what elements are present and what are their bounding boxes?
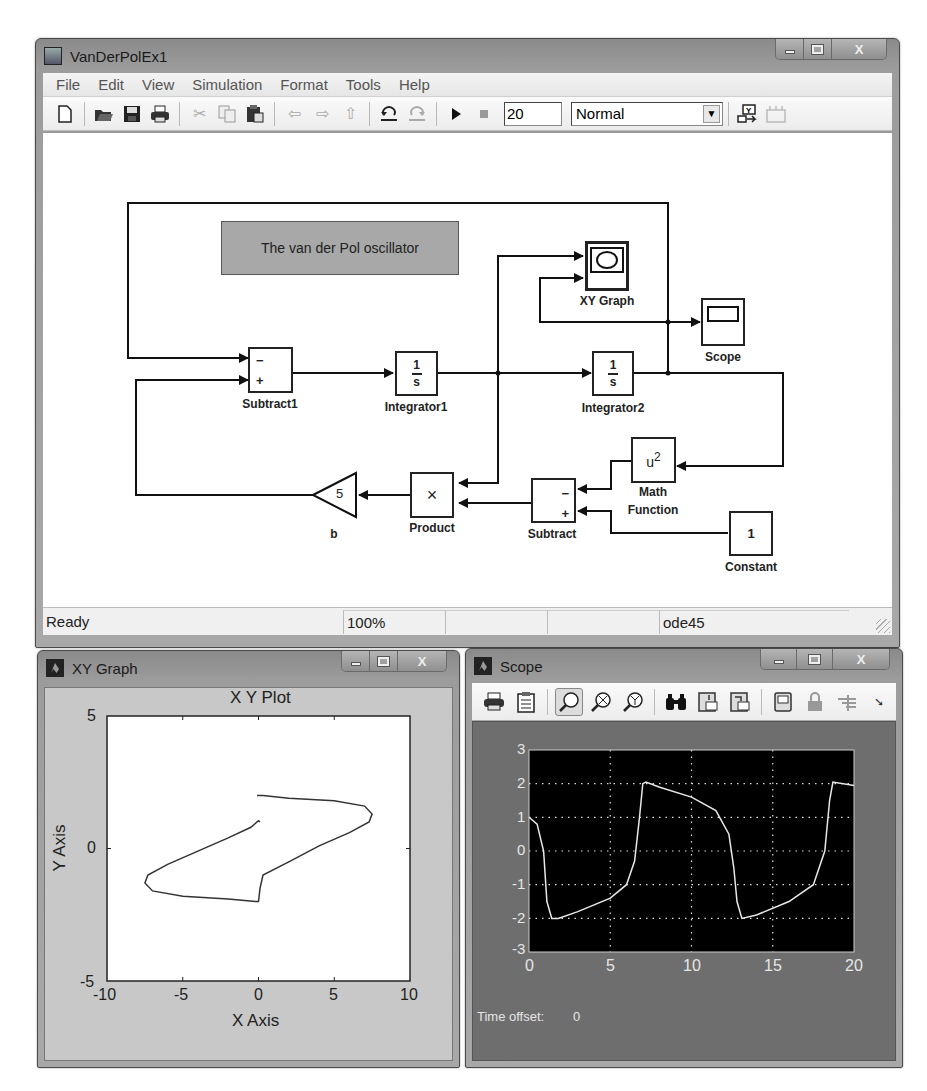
model-toolbar: ✂ ⇦ ⇨ ⇧ 20 Normal ▼ Y	[43, 97, 892, 131]
xy-graph-icon	[590, 247, 624, 273]
simulation-mode-value: Normal	[576, 105, 624, 122]
zoom-x-icon	[590, 691, 612, 713]
toolbar-separator	[728, 102, 729, 126]
signal-selector-button[interactable]	[833, 688, 861, 716]
xy-plot-axes[interactable]	[45, 688, 454, 1064]
open-button[interactable]	[93, 103, 115, 125]
status-state: Ready	[43, 610, 343, 634]
port-plus-sign: +	[256, 371, 291, 391]
constant-block[interactable]: 1	[729, 511, 773, 556]
forward-button[interactable]: ⇨	[311, 103, 333, 125]
back-button[interactable]: ⇦	[283, 103, 305, 125]
scope-x-tick-10: 10	[683, 957, 701, 975]
cut-button[interactable]: ✂	[188, 103, 210, 125]
scope-y-tick-neg1: -1	[512, 875, 525, 892]
product-block[interactable]: ×	[410, 472, 454, 518]
autoscale-button[interactable]	[662, 688, 690, 716]
new-model-button[interactable]	[54, 103, 76, 125]
toolbar-separator	[761, 689, 762, 715]
math-function-block[interactable]: u2	[631, 437, 676, 483]
close-button[interactable]: X	[832, 39, 886, 59]
toolbar-separator	[436, 102, 437, 126]
transfer-function: 1s	[608, 359, 618, 389]
menu-help[interactable]: Help	[390, 76, 439, 93]
up-button[interactable]: ⇧	[339, 103, 361, 125]
undo-icon	[379, 105, 399, 123]
scope-toolbar: ➘	[472, 683, 896, 721]
scope-block[interactable]	[701, 298, 745, 346]
math-exponent: 2	[654, 450, 661, 464]
scope-x-tick-0: 0	[525, 957, 534, 975]
close-button[interactable]: X	[398, 651, 446, 671]
zoom-x-button[interactable]	[587, 688, 615, 716]
minimize-button[interactable]	[761, 649, 797, 669]
zoom-button[interactable]	[555, 688, 583, 716]
model-titlebar[interactable]: VanDerPolEx1	[36, 39, 899, 73]
menu-simulation[interactable]: Simulation	[183, 76, 271, 93]
library-icon	[765, 104, 787, 124]
menu-edit[interactable]: Edit	[89, 76, 133, 93]
print-button[interactable]	[149, 103, 171, 125]
resize-grip[interactable]	[876, 619, 890, 633]
paste-button[interactable]	[244, 103, 266, 125]
constant-value: 1	[747, 526, 754, 541]
restore-axes-button[interactable]	[726, 688, 754, 716]
x-axis-label: X Axis	[232, 1011, 279, 1031]
subtract1-block[interactable]: − +	[248, 347, 293, 393]
subtract-block[interactable]: − +	[531, 478, 576, 523]
simulation-mode-select[interactable]: Normal ▼	[571, 102, 723, 126]
x-tick-5: 5	[329, 986, 338, 1004]
toolbar-separator	[369, 102, 370, 126]
matlab-figure-icon	[46, 659, 64, 677]
block-diagram-canvas[interactable]: The van der Pol oscillator − + Subtract1…	[43, 132, 892, 607]
restore-axes-icon	[729, 691, 751, 713]
redo-button[interactable]	[406, 103, 428, 125]
open-icon	[94, 105, 114, 123]
zoom-icon	[558, 691, 580, 713]
minimize-button[interactable]	[342, 651, 370, 671]
stop-time-input[interactable]: 20	[504, 102, 562, 126]
xy-figure-area: X Y Plot 5 0 -5 -10 -5 0 5 10 X Axis Y A…	[44, 687, 453, 1061]
annotation-title[interactable]: The van der Pol oscillator	[221, 221, 459, 275]
gain-value[interactable]: 5	[336, 486, 343, 501]
zoom-y-button[interactable]	[619, 688, 647, 716]
save-button[interactable]	[121, 103, 143, 125]
menu-file[interactable]: File	[47, 76, 89, 93]
integrator1-block[interactable]: 1s	[395, 351, 438, 396]
save-axes-button[interactable]	[694, 688, 722, 716]
xy-graph-block[interactable]	[585, 241, 629, 291]
chevron-down-icon[interactable]: ▼	[703, 105, 720, 123]
maximize-icon	[809, 655, 820, 664]
scope-x-tick-15: 15	[764, 957, 782, 975]
undo-button[interactable]	[378, 103, 400, 125]
scope-print-button[interactable]	[480, 688, 508, 716]
stop-simulation-button[interactable]	[473, 103, 495, 125]
scope-parameters-button[interactable]	[512, 688, 540, 716]
library-browser-button[interactable]	[765, 103, 787, 125]
math-base: u	[646, 454, 654, 470]
dock-button[interactable]: ➘	[865, 688, 893, 716]
copy-button[interactable]	[216, 103, 238, 125]
parameters-icon	[516, 691, 536, 713]
model-window: VanDerPolEx1 X File Edit View Simulation…	[35, 38, 900, 648]
menu-format[interactable]: Format	[271, 76, 337, 93]
floating-scope-button[interactable]	[769, 688, 797, 716]
build-button[interactable]: Y	[737, 103, 759, 125]
port-minus-sign: −	[561, 484, 569, 504]
minimize-button[interactable]	[776, 39, 804, 59]
maximize-button[interactable]	[797, 649, 833, 669]
port-plus-sign: +	[561, 504, 569, 524]
maximize-button[interactable]	[370, 651, 398, 671]
stop-icon	[479, 109, 489, 119]
lock-axes-button[interactable]	[801, 688, 829, 716]
xy-window-controls: X	[341, 651, 447, 672]
scope-x-tick-20: 20	[845, 957, 863, 975]
menu-view[interactable]: View	[133, 76, 183, 93]
integrator2-block[interactable]: 1s	[592, 351, 634, 396]
binoculars-icon	[665, 692, 687, 712]
close-button[interactable]: X	[833, 649, 889, 669]
start-simulation-button[interactable]	[445, 103, 467, 125]
status-solver: ode45	[659, 610, 849, 634]
menu-tools[interactable]: Tools	[337, 76, 390, 93]
maximize-button[interactable]	[804, 39, 832, 59]
